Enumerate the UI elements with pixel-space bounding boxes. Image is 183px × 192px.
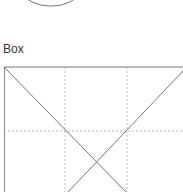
- box-shape: [4, 67, 183, 192]
- diagram-canvas: [0, 0, 183, 192]
- circle-shape: [22, 0, 80, 6]
- section-label: Box: [3, 42, 24, 56]
- diagonal-line-1: [4, 67, 126, 192]
